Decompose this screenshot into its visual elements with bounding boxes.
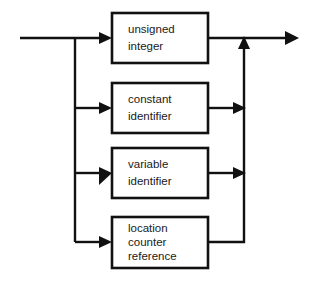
exit-path-location-counter-reference <box>208 45 244 242</box>
box-rect-unsigned-integer <box>112 13 208 63</box>
exit-arrow-main <box>285 31 299 45</box>
box-label-location-counter-reference-line-3: reference <box>128 250 177 262</box>
box-label-variable-identifier-line-2: identifier <box>128 175 172 187</box>
box-label-constant-identifier-line-2: identifier <box>128 110 172 122</box>
box-label-location-counter-reference-line-2: counter <box>128 236 167 248</box>
box-label-variable-identifier-line-1: variable <box>128 158 168 170</box>
box-rect-constant-identifier <box>112 83 208 133</box>
entry-arrow-location-counter-reference <box>99 236 112 248</box>
box-constant-identifier: constant identifier <box>112 83 208 133</box>
box-location-counter-reference: location counter reference <box>112 217 208 268</box>
box-unsigned-integer: unsigned integer <box>112 13 208 63</box>
box-label-location-counter-reference-line-1: location <box>128 222 168 234</box>
box-label-unsigned-integer-line-2: integer <box>128 40 163 52</box>
box-variable-identifier: variable identifier <box>112 148 208 198</box>
exit-path-constant-identifier <box>208 102 246 114</box>
exit-path-main <box>208 31 299 45</box>
branch-stub-constant-identifier <box>75 102 112 114</box>
exit-path-variable-identifier <box>208 167 246 179</box>
entry-arrow-unsigned-integer <box>99 32 112 44</box>
box-label-constant-identifier-line-1: constant <box>128 93 172 105</box>
railroad-diagram: unsigned integer constant identifier var… <box>0 0 311 285</box>
entry-arrow-variable-identifier <box>99 167 112 185</box>
entry-path <box>20 32 112 44</box>
branch-stub-variable-identifier <box>75 167 112 185</box>
syntax-diagram-canvas: unsigned integer constant identifier var… <box>0 0 311 285</box>
box-rect-variable-identifier <box>112 148 208 198</box>
entry-arrow-constant-identifier <box>99 102 112 114</box>
branch-stub-location-counter-reference <box>75 236 112 248</box>
box-label-unsigned-integer-line-1: unsigned <box>128 23 175 35</box>
